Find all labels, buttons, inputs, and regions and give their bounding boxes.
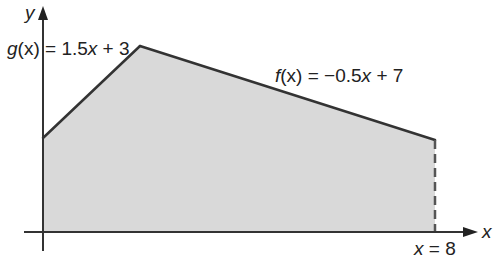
f-function-label: f(x) = −0.5x + 7 xyxy=(275,66,403,85)
y-axis-label: y xyxy=(25,3,35,22)
f-fn-tail: + 7 xyxy=(371,65,403,86)
f-fn-rest: = −0.5 xyxy=(302,65,361,86)
boundary-label: x = 8 xyxy=(414,239,456,258)
boundary-rest: = 8 xyxy=(424,238,456,259)
y-axis-arrow-icon xyxy=(38,6,48,20)
g-fn-var: x xyxy=(88,38,98,59)
f-fn-arg: (x) xyxy=(280,65,302,86)
f-fn-var: x xyxy=(362,65,372,86)
g-fn-arg: (x) xyxy=(18,38,40,59)
x-axis-arrow-icon xyxy=(463,227,478,237)
g-fn-tail: + 3 xyxy=(97,38,129,59)
g-fn-name: g xyxy=(7,38,18,59)
g-function-label: g(x) = 1.5x + 3 xyxy=(7,39,130,58)
x-axis-label: x xyxy=(482,222,492,241)
g-fn-rest: = 1.5 xyxy=(40,38,88,59)
boundary-var: x xyxy=(414,238,424,259)
